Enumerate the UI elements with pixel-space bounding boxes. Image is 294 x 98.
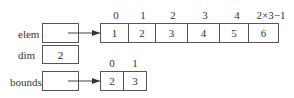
- elem-index-3: 3: [189, 9, 221, 21]
- bounds-cell-0: 2: [100, 71, 124, 91]
- bounds-cell-1: 3: [123, 71, 147, 91]
- elem-cell-2: 3: [155, 23, 188, 43]
- elem-cell-0: 1: [100, 23, 129, 43]
- elem-cell-4: 5: [219, 23, 249, 43]
- elem-cell-3: 4: [187, 23, 220, 43]
- elem-index-2: 2: [157, 9, 189, 21]
- elem-cell-1: 2: [128, 23, 156, 43]
- elem-cell-5: 6: [248, 23, 279, 43]
- elem-index-1: 1: [127, 9, 159, 21]
- elem-index-5: 2×3−1: [249, 9, 293, 21]
- bounds-index-1: 1: [123, 57, 147, 69]
- bounds-index-0: 0: [100, 57, 124, 69]
